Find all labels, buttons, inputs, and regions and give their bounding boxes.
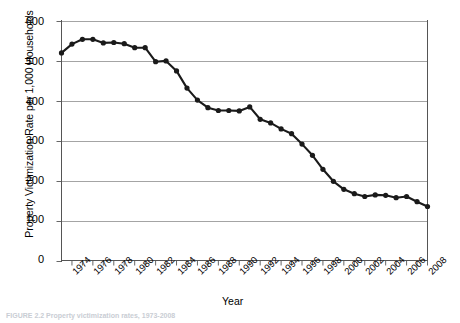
data-point — [425, 204, 430, 209]
data-point — [341, 187, 346, 192]
data-point — [279, 126, 284, 131]
data-point — [163, 58, 168, 63]
data-point — [373, 192, 378, 197]
data-point — [258, 117, 263, 122]
figure-caption: FIGURE 2.2 Property victimization rates,… — [6, 312, 175, 319]
data-point — [226, 108, 231, 113]
data-point — [237, 108, 242, 113]
data-point — [394, 195, 399, 200]
data-point — [414, 199, 419, 204]
data-point — [247, 104, 252, 109]
y-tick-label-100: 100 — [10, 214, 44, 225]
y-tick-label-600: 600 — [10, 16, 44, 27]
x-axis-title: Year — [222, 295, 243, 307]
data-point — [132, 45, 137, 50]
y-tick-label-200: 200 — [10, 175, 44, 186]
y-tick-label-0: 0 — [10, 254, 44, 265]
data-point — [205, 105, 210, 110]
data-point — [320, 167, 325, 172]
data-point — [59, 50, 64, 55]
chart-container: Property Victimization Rate per 1,000 Ho… — [0, 0, 460, 323]
data-point — [268, 120, 273, 125]
y-tick-label-500: 500 — [10, 56, 44, 67]
data-point — [122, 41, 127, 46]
data-point — [69, 42, 74, 47]
y-tick-label-300: 300 — [10, 135, 44, 146]
gridlines — [62, 22, 428, 222]
data-point — [143, 45, 148, 50]
data-point — [101, 40, 106, 45]
data-point — [299, 142, 304, 147]
data-point — [195, 98, 200, 103]
y-tick-label-400: 400 — [10, 96, 44, 107]
data-point — [216, 108, 221, 113]
data-point — [310, 153, 315, 158]
data-point — [174, 68, 179, 73]
data-series-markers — [59, 37, 430, 209]
data-point — [352, 191, 357, 196]
data-point — [289, 131, 294, 136]
data-point — [153, 59, 158, 64]
data-point — [362, 194, 367, 199]
y-axis-title: Property Victimization Rate per 1,000 Ho… — [23, 0, 35, 249]
data-point — [184, 86, 189, 91]
data-point — [404, 194, 409, 199]
data-point — [331, 179, 336, 184]
data-point — [80, 37, 85, 42]
data-point — [90, 37, 95, 42]
data-point — [111, 40, 116, 45]
data-point — [383, 193, 388, 198]
x-axis-ticks — [57, 22, 428, 266]
